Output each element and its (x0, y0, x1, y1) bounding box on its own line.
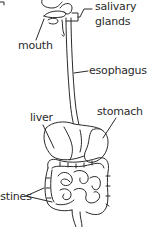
mouth-label: mouth (18, 40, 53, 52)
esophagus-leader (74, 71, 88, 73)
mouth-region (0, 0, 72, 36)
salivary-glands-label: salivary (95, 1, 136, 13)
esophagus-label: esophagus (89, 65, 147, 77)
stomach-label: stomach (97, 106, 143, 118)
mouth-leader (36, 19, 44, 40)
intestines-label: intestines (0, 191, 32, 203)
intestines-shape (45, 158, 110, 227)
stomach-leader (103, 118, 116, 138)
salivary-glands-label-line2: glands (95, 16, 130, 28)
esophagus-tube (66, 18, 80, 133)
salivary-bracket (66, 9, 92, 21)
liver-label: liver (30, 112, 53, 124)
